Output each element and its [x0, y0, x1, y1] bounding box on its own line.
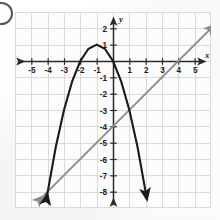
y-tick-label: -8 [100, 188, 108, 197]
y-tick-label: -1 [100, 74, 108, 83]
figure-root: -5 -4 -3 -2 -1 1 2 3 4 5 2 1 -1 -2 -3 -4… [0, 0, 220, 220]
x-tick-label: -4 [45, 66, 53, 75]
coordinate-plane: -5 -4 -3 -2 -1 1 2 3 4 5 2 1 -1 -2 -3 -4… [15, 12, 211, 208]
y-tick-label: -5 [100, 139, 108, 148]
y-tick-label: -6 [100, 156, 108, 165]
y-tick-label: -7 [100, 172, 108, 181]
y-tick-label: -3 [100, 107, 108, 116]
x-axis-label: x [204, 50, 210, 60]
x-tick-label: -3 [61, 66, 69, 75]
x-tick-label: 4 [177, 66, 182, 75]
y-tick-label: -4 [100, 123, 108, 132]
x-tick-label: 5 [193, 66, 198, 75]
graph-svg: -5 -4 -3 -2 -1 1 2 3 4 5 2 1 -1 -2 -3 -4… [15, 12, 211, 208]
x-tick-label: 2 [144, 66, 149, 75]
y-tick-label: -2 [100, 90, 108, 99]
x-tick-label: 1 [128, 66, 133, 75]
answer-choice-bullet-icon[interactable] [0, 2, 13, 25]
y-tick-label: 2 [102, 25, 107, 34]
x-tick-label: -5 [28, 66, 36, 75]
